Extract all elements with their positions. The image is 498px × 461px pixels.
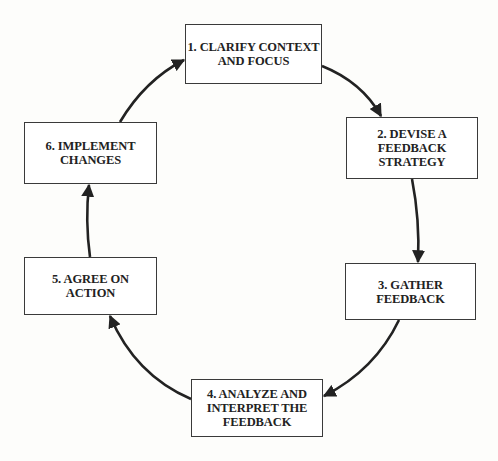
step-3-gather-feedback: 3. GATHER FEEDBACK (345, 263, 476, 320)
arrow-5-to-6 (87, 185, 90, 257)
arrow-3-to-4 (324, 320, 399, 396)
step-1-clarify-context: 1. CLARIFY CONTEXT AND FOCUS (185, 24, 322, 84)
feedback-cycle-diagram: 1. CLARIFY CONTEXT AND FOCUS 2. DEVISE A… (0, 0, 498, 461)
step-6-implement-changes: 6. IMPLEMENT CHANGES (24, 122, 157, 184)
step-4-label: 4. ANALYZE AND INTERPRET THE FEEDBACK (207, 387, 308, 429)
step-1-label: 1. CLARIFY CONTEXT AND FOCUS (187, 40, 319, 68)
step-6-label: 6. IMPLEMENT CHANGES (46, 139, 136, 167)
step-5-agree-on-action: 5. AGREE ON ACTION (24, 257, 157, 315)
arrow-6-to-1 (120, 60, 184, 122)
step-2-devise-strategy: 2. DEVISE A FEEDBACK STRATEGY (346, 117, 478, 179)
step-4-analyze-interpret: 4. ANALYZE AND INTERPRET THE FEEDBACK (191, 379, 323, 437)
arrow-1-to-2 (322, 66, 381, 116)
step-3-label: 3. GATHER FEEDBACK (376, 278, 445, 306)
step-2-label: 2. DEVISE A FEEDBACK STRATEGY (377, 127, 446, 169)
arrow-4-to-5 (110, 316, 191, 399)
arrow-2-to-3 (412, 179, 418, 262)
step-5-label: 5. AGREE ON ACTION (52, 272, 129, 300)
